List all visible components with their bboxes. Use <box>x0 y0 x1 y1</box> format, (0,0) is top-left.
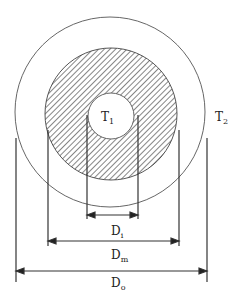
label-di: Di <box>111 224 124 240</box>
label-do: Do <box>111 276 126 292</box>
inner-circle <box>88 93 134 139</box>
diagram-canvas: T1 T2 Di Dm Do <box>0 0 238 305</box>
label-dm: Dm <box>111 248 129 264</box>
label-t2: T2 <box>215 110 228 126</box>
dimension-arrows <box>16 212 207 274</box>
